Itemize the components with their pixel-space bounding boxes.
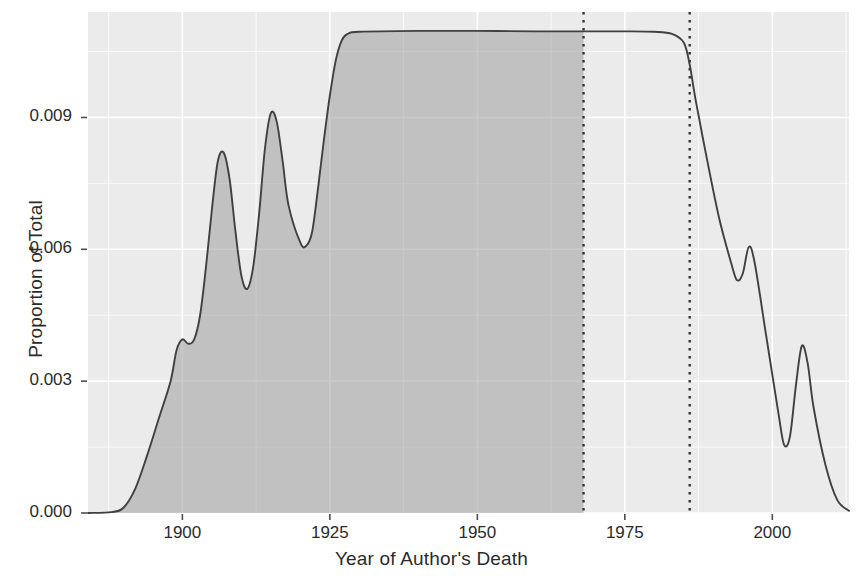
x-axis-title: Year of Author's Death — [0, 548, 863, 570]
x-tick-label: 1900 — [142, 523, 222, 543]
y-tick-label: 0.000 — [2, 502, 72, 522]
x-tick-label: 1950 — [437, 523, 517, 543]
x-tick-label: 2000 — [732, 523, 812, 543]
y-tick-label: 0.006 — [2, 238, 72, 258]
chart-canvas — [0, 0, 863, 587]
y-tick-label: 0.009 — [2, 106, 72, 126]
chart-container: Proportion of Total Year of Author's Dea… — [0, 0, 863, 587]
x-tick-label: 1925 — [290, 523, 370, 543]
x-tick-label: 1975 — [585, 523, 665, 543]
y-tick-label: 0.003 — [2, 370, 72, 390]
y-axis-title: Proportion of Total — [25, 159, 47, 399]
